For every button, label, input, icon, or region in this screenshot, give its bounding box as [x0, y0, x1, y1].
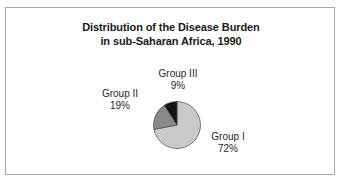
figure-frame: Distribution of the Disease Burden in su… [5, 7, 335, 175]
pie-label-group-i-value: 72% [192, 143, 264, 155]
pie-label-group-i: Group I 72% [192, 131, 264, 155]
pie-label-group-ii-name: Group II [84, 88, 156, 100]
pie-label-group-ii-value: 19% [84, 100, 156, 112]
pie-chart-area: Group III 9% Group II 19% Group I 72% [6, 8, 336, 176]
figure-root: Distribution of the Disease Burden in su… [0, 0, 343, 186]
pie-label-group-ii: Group II 19% [84, 88, 156, 112]
pie-label-group-iii-name: Group III [142, 68, 214, 80]
pie-label-group-i-name: Group I [192, 131, 264, 143]
